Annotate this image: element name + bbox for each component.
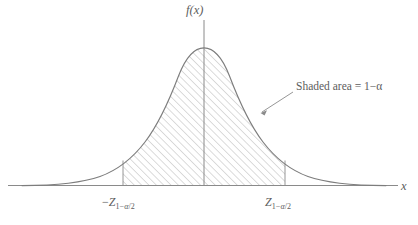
- right-sub-post: /2: [285, 202, 291, 211]
- right-tick-label: Z1−α/2: [265, 196, 291, 208]
- normal-distribution-figure: [0, 0, 418, 225]
- y-axis-label: f(x): [186, 4, 203, 17]
- shaded-area-annotation: Shaded area = 1−α: [296, 81, 382, 93]
- annotation-leader: [261, 92, 294, 115]
- right-tick-variable: Z: [265, 195, 272, 209]
- x-axis-label: x: [401, 180, 407, 193]
- left-tick-label: −Z1−α/2: [102, 196, 135, 208]
- left-sub-post: /2: [129, 202, 135, 211]
- right-tick-subscript: 1−α/2: [272, 202, 291, 211]
- left-tick-subscript: 1−α/2: [115, 202, 134, 211]
- left-tick-sign: −: [102, 195, 109, 209]
- left-sub-pre: 1−: [115, 202, 124, 211]
- figure-canvas: f(x) x Shaded area = 1−α −Z1−α/2 Z1−α/2: [0, 0, 418, 225]
